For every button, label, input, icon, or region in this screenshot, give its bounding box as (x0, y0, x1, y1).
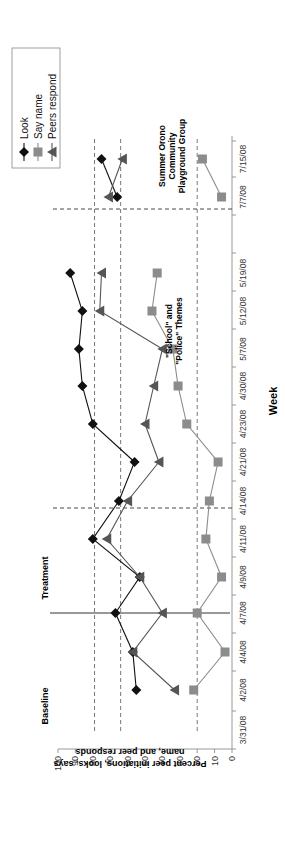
say-name-marker (34, 148, 43, 157)
x-tick-label: 4/23/08 (238, 410, 248, 439)
x-axis-title: Week (267, 386, 279, 415)
themes-label-2: "Police" Themes (174, 297, 184, 365)
peers-respond-marker (123, 496, 133, 507)
look-marker (77, 306, 87, 316)
look-marker (114, 496, 124, 506)
x-tick-label: 7/15/08 (238, 145, 248, 174)
x-tick-label: 5/12/08 (238, 297, 248, 326)
series-look (65, 154, 145, 695)
legend-label: Look (19, 116, 30, 139)
summer-label-1: Summer Orono (157, 125, 167, 187)
say-name-marker (147, 307, 156, 316)
say-name-marker (193, 609, 202, 618)
baseline-label: Baseline (40, 687, 50, 724)
x-tick-label: 4/21/08 (238, 448, 248, 477)
say-name-marker (205, 497, 214, 506)
series-peers-respond (95, 154, 179, 696)
say-name-marker (189, 686, 198, 695)
say-name-marker (198, 155, 207, 164)
axes: 01020304050607080901003/31/084/2/084/4/0… (53, 136, 248, 771)
look-marker (97, 154, 107, 164)
x-tick-label: 7/7/08 (238, 185, 248, 209)
x-tick-label: 5/19/08 (238, 259, 248, 288)
peers-respond-marker (117, 154, 127, 165)
x-tick-label: 4/7/08 (238, 601, 248, 625)
look-marker (77, 381, 87, 391)
say-name-marker (217, 573, 226, 582)
look-marker (65, 268, 75, 278)
say-name-marker (174, 382, 183, 391)
say-name-marker (153, 269, 162, 278)
legend-label: Peers respond (47, 74, 58, 139)
x-tick-label: 4/11/08 (238, 525, 248, 553)
say-name-marker (201, 535, 210, 544)
x-tick-label: 5/7/08 (238, 337, 248, 361)
say-name-marker (217, 193, 226, 202)
peers-respond-marker (149, 381, 159, 392)
look-marker (110, 608, 120, 618)
say-name-marker (221, 648, 230, 657)
data-series (65, 154, 229, 696)
themes-label-1: "School" and (164, 304, 174, 358)
x-tick-label: 3/31/08 (238, 716, 248, 745)
y-axis-title-2: name, and peer responds (75, 747, 184, 757)
legend-label: Say name (33, 94, 44, 139)
summer-label-3: Playground Group (177, 119, 187, 194)
legend: LookSay namePeers respond (12, 48, 60, 168)
peers-respond-marker (102, 534, 112, 545)
say-name-marker (182, 420, 191, 429)
look-marker (112, 192, 122, 202)
line-chart: 01020304050607080901003/31/084/2/084/4/0… (0, 0, 285, 841)
y-axis-title-1: Percent peer initiations, looks, says (53, 759, 206, 769)
peers-respond-marker (103, 192, 113, 203)
treatment-label: Treatment (40, 556, 50, 599)
y-tick-label: 10 (210, 756, 220, 766)
x-tick-label: 4/4/08 (238, 640, 248, 664)
rotated-chart: 01020304050607080901003/31/084/2/084/4/0… (0, 0, 285, 841)
x-tick-label: 4/9/08 (238, 565, 248, 589)
say-name-marker (214, 458, 223, 467)
peers-respond-marker (140, 419, 150, 430)
x-tick-label: 4/30/08 (238, 372, 248, 401)
x-tick-label: 4/14/08 (238, 487, 248, 516)
look-marker (74, 344, 84, 354)
look-marker (131, 685, 141, 695)
y-tick-label: 0 (227, 756, 237, 761)
x-tick-label: 4/2/08 (238, 678, 248, 702)
summer-label-2: Community (167, 132, 177, 179)
